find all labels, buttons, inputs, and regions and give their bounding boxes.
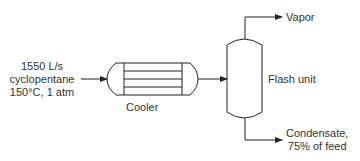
feed-flow-rate: 1550 L/s [6,60,78,73]
cooler-exchanger [107,63,198,95]
condensate-title: Condensate, [286,127,348,140]
condensate-stream-arrow [245,118,282,140]
flash-vessel [227,39,262,118]
feed-component: cyclopentane [6,73,78,86]
flash-unit-label: Flash unit [268,73,316,86]
cooler-label: Cooler [126,101,158,114]
condensate-fraction: 75% of feed [286,140,348,153]
feed-conditions: 150°C, 1 atm [6,86,78,99]
condensate-label: Condensate, 75% of feed [286,127,348,153]
vapor-label: Vapor [286,11,315,24]
vapor-stream-arrow [245,17,282,39]
feed-label: 1550 L/s cyclopentane 150°C, 1 atm [6,60,78,99]
